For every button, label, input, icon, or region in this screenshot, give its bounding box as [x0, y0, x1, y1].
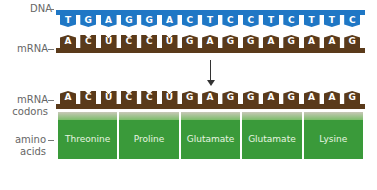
arrow-line — [210, 60, 211, 82]
base: U — [101, 35, 117, 48]
mrna-backbone-codons — [56, 104, 365, 109]
mrna-codons-tick — [48, 100, 54, 101]
amino-acid-cell: Glutamate — [181, 112, 240, 159]
acids-label: acids — [10, 146, 46, 157]
base: G — [344, 91, 360, 104]
base: A — [304, 91, 320, 104]
base: G — [182, 35, 198, 48]
base: T — [202, 14, 218, 27]
base: A — [202, 91, 218, 104]
base: U — [162, 91, 178, 104]
base: G — [243, 35, 259, 48]
base: A — [263, 91, 279, 104]
base: G — [243, 91, 259, 104]
base: G — [121, 14, 137, 27]
base: G — [80, 14, 96, 27]
base: A — [162, 14, 178, 27]
arrow-down-icon — [207, 80, 215, 86]
base: A — [101, 14, 117, 27]
base: C — [80, 91, 96, 104]
base: C — [80, 35, 96, 48]
base: U — [162, 35, 178, 48]
base: A — [304, 35, 320, 48]
amino-label-tick — [48, 140, 54, 141]
amino-label: amino — [10, 134, 46, 145]
base: A — [60, 35, 76, 48]
base: A — [60, 91, 76, 104]
base: A — [324, 91, 340, 104]
dna-label-tick — [48, 9, 54, 10]
amino-acid-row: Threonine Proline Glutamate Glutamate Ly… — [58, 112, 363, 159]
base: C — [344, 14, 360, 27]
amino-acid-cell: Glutamate — [242, 112, 301, 159]
base: G — [344, 35, 360, 48]
base: C — [182, 14, 198, 27]
base: T — [324, 14, 340, 27]
codons-label: codons — [10, 106, 48, 117]
base: C — [222, 14, 238, 27]
base: C — [141, 91, 157, 104]
base: A — [324, 35, 340, 48]
base: C — [121, 35, 137, 48]
base: G — [283, 91, 299, 104]
amino-acid-cell: Proline — [119, 112, 178, 159]
base: G — [141, 14, 157, 27]
base: T — [60, 14, 76, 27]
base: G — [182, 91, 198, 104]
base: A — [263, 35, 279, 48]
base: C — [121, 91, 137, 104]
mrna-label-tick — [48, 49, 54, 50]
base: C — [243, 14, 259, 27]
base: G — [283, 35, 299, 48]
mrna-label: mRNA — [10, 43, 48, 54]
base: C — [283, 14, 299, 27]
base: C — [141, 35, 157, 48]
amino-acid-cell: Lysine — [304, 112, 363, 159]
base: T — [304, 14, 320, 27]
base: G — [222, 91, 238, 104]
base: A — [202, 35, 218, 48]
base: U — [101, 91, 117, 104]
base: G — [222, 35, 238, 48]
mrna-codons-label: mRNA — [10, 94, 48, 105]
amino-acid-cell: Threonine — [58, 112, 117, 159]
base: T — [263, 14, 279, 27]
mrna-backbone-top — [56, 48, 365, 53]
